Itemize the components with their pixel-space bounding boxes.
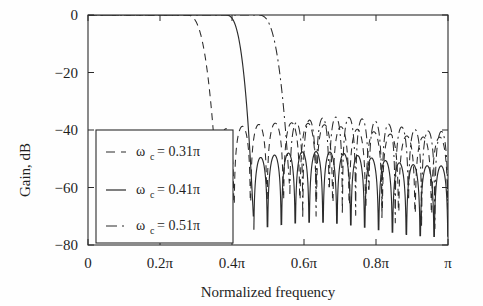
y-tick-label: 0 — [71, 7, 79, 23]
legend-value-1: = 0.41π — [157, 182, 200, 197]
legend-omega-1: ω — [136, 182, 145, 197]
legend-omega-2: ω — [136, 218, 145, 233]
legend-omega-0: ω — [136, 144, 145, 159]
x-tick-label: π — [444, 255, 452, 271]
x-tick-label: 0 — [84, 255, 92, 271]
legend-value-0: = 0.31π — [157, 144, 200, 159]
x-tick-label: 0.6π — [291, 255, 318, 271]
y-axis-label: Gain, dB — [17, 143, 33, 197]
x-tick-label: 0.8π — [363, 255, 390, 271]
legend[interactable]: ωc= 0.31πωc= 0.41πωc= 0.51π — [96, 130, 233, 243]
figure-container: Gain, dB Normalized frequency 0−20−40−60… — [0, 0, 483, 306]
x-tick-label: 0.2π — [147, 255, 174, 271]
y-tick-label: −60 — [55, 180, 78, 196]
legend-subscript-0: c — [150, 151, 155, 162]
y-tick-label: −40 — [55, 122, 78, 138]
legend-subscript-1: c — [150, 189, 155, 200]
filter-response-chart: Gain, dB Normalized frequency 0−20−40−60… — [0, 0, 483, 306]
x-axis-label: Normalized frequency — [201, 284, 336, 300]
x-tick-label: 0.4π — [219, 255, 246, 271]
y-tick-label: −80 — [55, 237, 78, 253]
legend-subscript-2: c — [150, 225, 155, 236]
legend-value-2: = 0.51π — [157, 218, 200, 233]
y-tick-label: −20 — [55, 65, 78, 81]
